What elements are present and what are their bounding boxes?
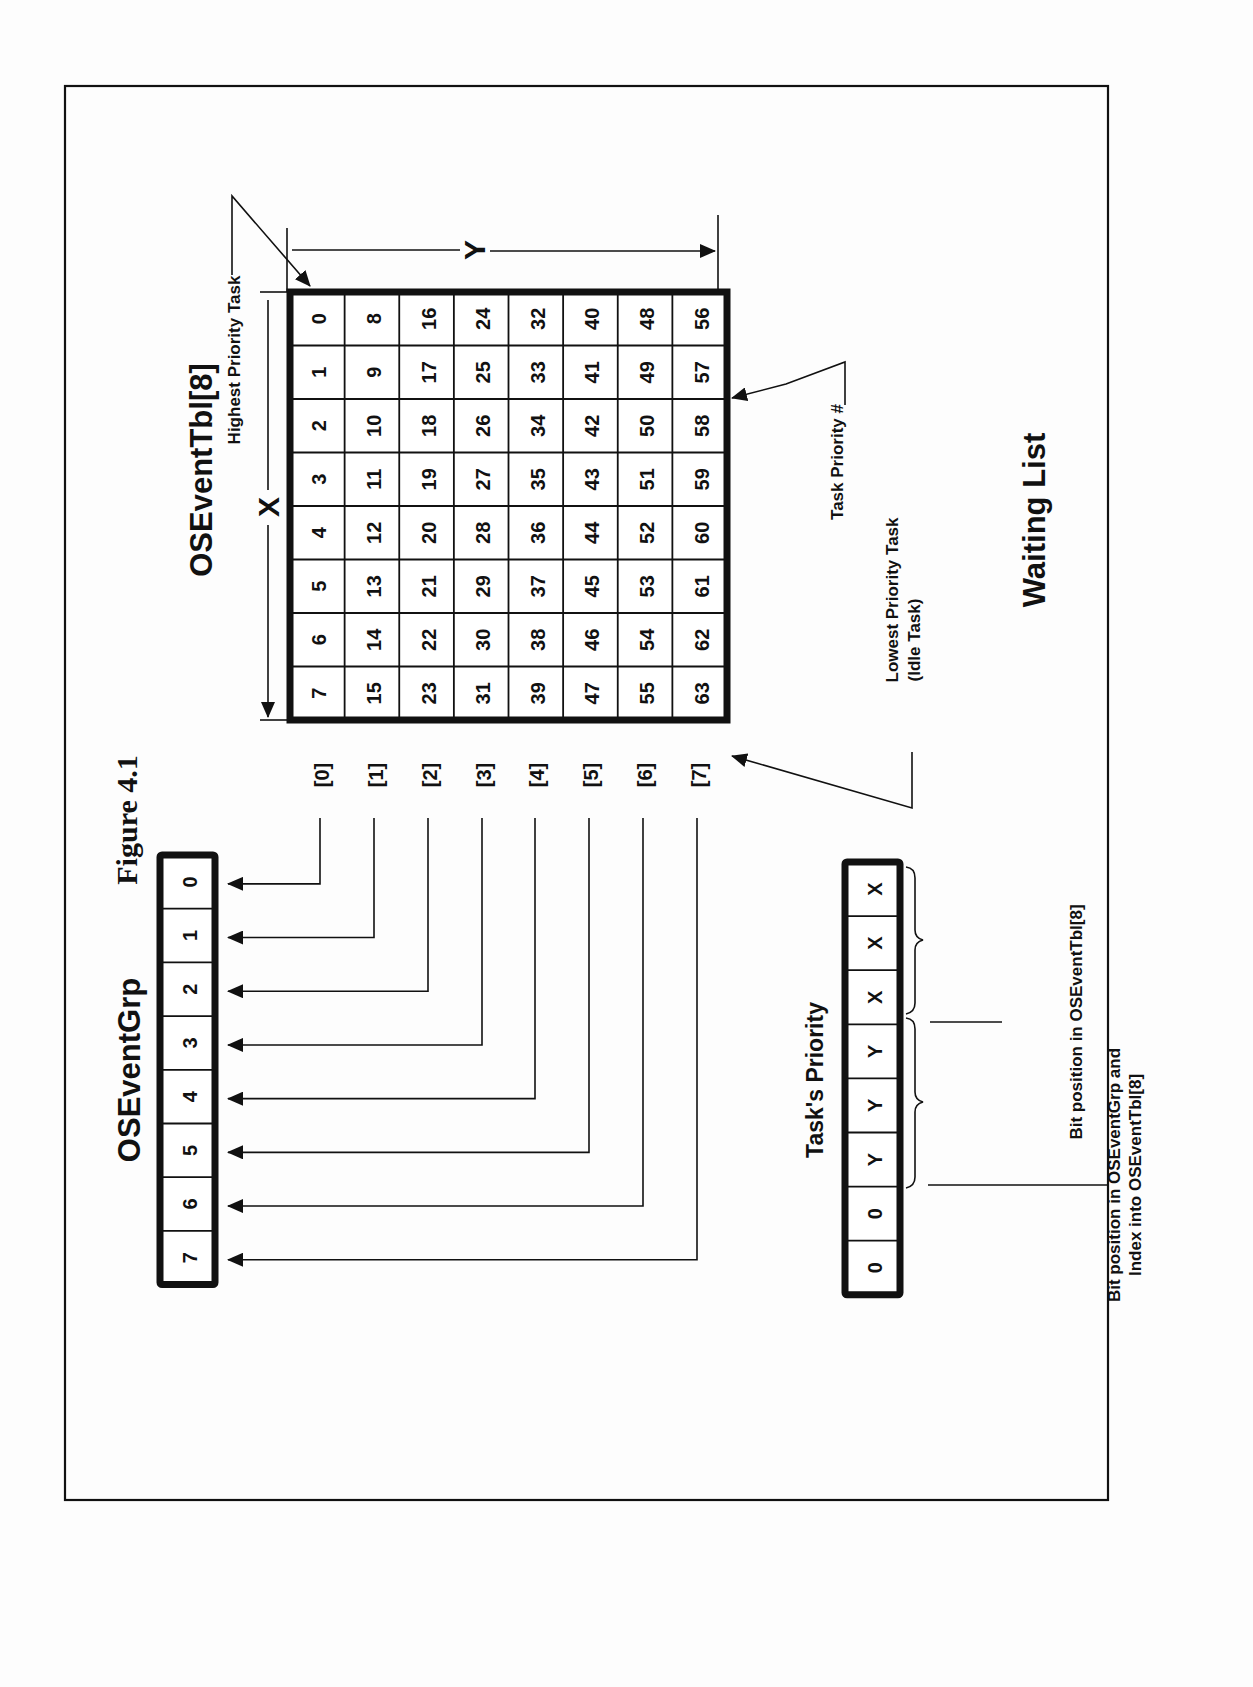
priority-cell: 12: [363, 522, 385, 544]
priority-cell: 10: [363, 415, 385, 437]
svg-text:30: 30: [472, 629, 494, 651]
svg-text:41: 41: [581, 361, 603, 383]
priority-bit-cell: 0: [864, 1262, 886, 1273]
svg-text:Lowest Priority Task: Lowest Priority Task: [883, 517, 902, 683]
priority-cell: 26: [472, 415, 494, 437]
svg-text:15: 15: [363, 682, 385, 704]
priority-cell: 43: [581, 468, 603, 490]
svg-text:Task's Priority: Task's Priority: [802, 1002, 828, 1158]
row-to-group-connector: [228, 818, 320, 884]
svg-text:53: 53: [636, 575, 658, 597]
highest-priority-label: Highest Priority Task: [225, 275, 244, 444]
svg-text:5: 5: [179, 1145, 201, 1156]
svg-text:2: 2: [308, 420, 330, 431]
svg-text:[6]: [6]: [634, 763, 656, 787]
row-index-label: [5]: [580, 763, 602, 787]
svg-text:13: 13: [363, 575, 385, 597]
priority-cell: 48: [636, 308, 658, 330]
svg-text:19: 19: [418, 468, 440, 490]
svg-text:17: 17: [418, 361, 440, 383]
row-index-label: [1]: [365, 763, 387, 787]
svg-text:6: 6: [308, 634, 330, 645]
group-bit-cell: 5: [179, 1145, 201, 1156]
svg-text:49: 49: [636, 361, 658, 383]
priority-cell: 60: [691, 522, 713, 544]
group-bit-cell: 3: [179, 1037, 201, 1048]
priority-cell: 8: [363, 313, 385, 324]
svg-text:12: 12: [363, 522, 385, 544]
svg-text:44: 44: [581, 521, 603, 544]
svg-text:X: X: [864, 936, 886, 950]
priority-cell: 5: [308, 581, 330, 592]
priority-cell: 46: [581, 629, 603, 651]
priority-cell: 28: [472, 522, 494, 544]
priority-cell: 40: [581, 308, 603, 330]
priority-cell: 7: [308, 688, 330, 699]
priority-cell: 15: [363, 682, 385, 704]
svg-text:33: 33: [527, 361, 549, 383]
svg-text:40: 40: [581, 308, 603, 330]
priority-cell: 38: [527, 629, 549, 651]
priority-cell: 42: [581, 415, 603, 437]
priority-cell: 6: [308, 634, 330, 645]
svg-text:22: 22: [418, 629, 440, 651]
svg-text:10: 10: [363, 415, 385, 437]
row-to-group-connector: [228, 818, 482, 1045]
svg-text:6: 6: [179, 1198, 201, 1209]
svg-text:43: 43: [581, 468, 603, 490]
svg-text:(Idle Task): (Idle Task): [905, 599, 924, 682]
svg-text:OSEventGrp: OSEventGrp: [112, 978, 147, 1162]
priority-cell: 29: [472, 575, 494, 597]
priority-bit-cell: X: [864, 936, 886, 950]
priority-bit-cell: X: [864, 882, 886, 896]
svg-text:9: 9: [363, 367, 385, 378]
priority-cell: 24: [472, 307, 494, 330]
svg-text:28: 28: [472, 522, 494, 544]
svg-text:Waiting List: Waiting List: [1017, 433, 1052, 608]
svg-text:[1]: [1]: [365, 763, 387, 787]
row-index-label: [2]: [419, 763, 441, 787]
priority-cell: 18: [418, 415, 440, 437]
svg-text:21: 21: [418, 575, 440, 597]
svg-text:32: 32: [527, 308, 549, 330]
svg-text:Figure 4.1: Figure 4.1: [110, 755, 143, 884]
row-index-label: [0]: [311, 763, 333, 787]
priority-cell: 30: [472, 629, 494, 651]
svg-text:0: 0: [864, 1208, 886, 1219]
row-index-label: [7]: [688, 763, 710, 787]
group-bit-cell: 2: [179, 984, 201, 995]
svg-text:Bit position in OSEventGrp and: Bit position in OSEventGrp and: [1105, 1048, 1124, 1302]
svg-text:1: 1: [308, 367, 330, 378]
svg-text:56: 56: [691, 308, 713, 330]
svg-text:20: 20: [418, 522, 440, 544]
row-to-group-connector: [228, 818, 374, 938]
svg-text:Y: Y: [458, 240, 491, 260]
svg-text:4: 4: [308, 526, 330, 538]
priority-cell: 2: [308, 420, 330, 431]
row-index-label: [6]: [634, 763, 656, 787]
svg-text:[2]: [2]: [419, 763, 441, 787]
priority-cell: 57: [691, 361, 713, 383]
priority-cell: 22: [418, 629, 440, 651]
priority-cell: 20: [418, 522, 440, 544]
priority-cell: 11: [363, 469, 385, 490]
priority-cell: 45: [581, 575, 603, 597]
row-index-label: [4]: [526, 763, 548, 787]
svg-text:35: 35: [527, 468, 549, 490]
svg-text:61: 61: [691, 575, 713, 597]
svg-text:X: X: [864, 990, 886, 1004]
event-group-register: 01234567: [160, 855, 215, 1285]
priority-cell: 51: [636, 468, 658, 490]
priority-cell: 49: [636, 361, 658, 383]
svg-text:34: 34: [527, 414, 549, 437]
svg-text:0: 0: [864, 1262, 886, 1273]
row-index-labels: [0][1][2][3][4][5][6][7]: [228, 763, 710, 1260]
svg-text:57: 57: [691, 361, 713, 383]
event-group-title: OSEventGrp: [112, 978, 147, 1162]
y-axis-label: Y: [458, 240, 491, 260]
priority-cell: 13: [363, 575, 385, 597]
svg-text:46: 46: [581, 629, 603, 651]
priority-cell: 17: [418, 361, 440, 383]
svg-text:48: 48: [636, 308, 658, 330]
svg-text:Y: Y: [864, 1152, 886, 1166]
